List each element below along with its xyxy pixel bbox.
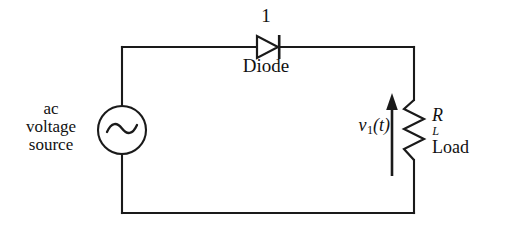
voltage-arrow-label: v1(t) bbox=[338, 116, 390, 137]
load-label: RL Load bbox=[432, 106, 506, 157]
voltage-variable-symbol: v bbox=[359, 115, 367, 135]
ac-source-label: ac voltage source bbox=[8, 100, 94, 154]
circuit-diagram: ac voltage source 1 Diode v1(t) RL Load bbox=[0, 0, 509, 233]
ac-source-sine-wave bbox=[107, 124, 137, 133]
load-caption: Load bbox=[432, 138, 506, 157]
ac-source-label-line1: ac bbox=[8, 100, 94, 118]
voltage-argument: (t) bbox=[373, 115, 390, 135]
diode-caption-label: Diode bbox=[226, 56, 306, 76]
load-resistor-symbol: RL bbox=[432, 106, 506, 138]
load-resistor-letter: R bbox=[432, 106, 506, 125]
ac-source-label-line2: voltage bbox=[8, 118, 94, 136]
diode-number-label: 1 bbox=[248, 6, 284, 26]
load-resistor-zigzag bbox=[404, 100, 424, 160]
voltage-arrow-head bbox=[386, 93, 398, 110]
ac-source-label-line3: source bbox=[8, 136, 94, 154]
